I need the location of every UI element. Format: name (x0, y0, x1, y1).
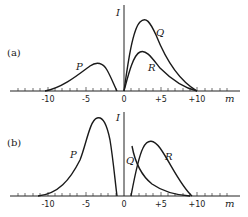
intensity-charts: -10 -5 0 +5 +10 m I (a) P Q R (0, 0, 248, 217)
panel-a: -10 -5 0 +5 +10 m I (a) P Q R (7, 5, 240, 104)
y-axis-label-b: I (115, 112, 121, 123)
tick-label-b-3: +5 (155, 200, 167, 209)
curve-label-b-R: R (164, 151, 173, 162)
panel-b: -10 -5 0 +5 +10 m I (b) P Q R (7, 112, 240, 209)
curve-label-b-Q: Q (126, 155, 134, 166)
tick-label-b-2: 0 (121, 200, 126, 209)
panel-label-a: (a) (7, 47, 21, 58)
x-axis-label-b: m (225, 198, 234, 209)
tick-label-a-3: +5 (155, 95, 167, 104)
tick-label-a-2: 0 (121, 95, 126, 104)
curve-label-b-P: P (69, 149, 77, 160)
curve-label-a-P: P (75, 61, 83, 72)
curve-label-a-Q: Q (156, 27, 164, 38)
tick-label-b-4: +10 (189, 200, 206, 209)
panel-label-b: (b) (7, 137, 21, 148)
curve-b-P (38, 118, 117, 196)
tick-label-a-4: +10 (189, 95, 206, 104)
tick-label-a-1: -5 (82, 95, 90, 104)
tick-label-b-0: -10 (41, 200, 54, 209)
tick-label-a-0: -10 (41, 95, 54, 104)
x-axis-label-a: m (225, 93, 234, 104)
curve-label-a-R: R (147, 62, 156, 73)
curve-a-R (124, 51, 197, 91)
y-axis-label-a: I (115, 7, 121, 18)
tick-label-b-1: -5 (82, 200, 90, 209)
